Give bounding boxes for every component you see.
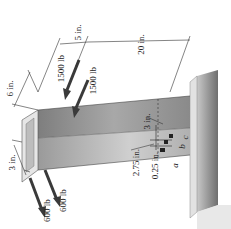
load-1500lb-label-1: 1500 lb	[57, 55, 66, 82]
point-c-marker	[169, 134, 173, 138]
beam-diagram: 6 in. 5 in. 20 in. 1500 lb 1500 lb 3 in.…	[0, 0, 231, 229]
dim-2-75in-label: 2.75 in.	[132, 149, 141, 176]
dim-3in-left-label: 3 in.	[8, 154, 17, 170]
dim-5in-label: 5 in.	[74, 24, 83, 40]
dim-6in-label: 6 in.	[6, 80, 15, 96]
dim-3in-right-label: 3 in.	[143, 113, 152, 129]
beam-drawing	[0, 0, 231, 229]
wall	[190, 70, 231, 229]
load-1500lb-label-2: 1500 lb	[89, 67, 98, 94]
dim-20in-label: 20 in.	[137, 34, 146, 55]
point-b-marker	[164, 140, 168, 144]
load-600lb-label-2: 600 lb	[43, 199, 52, 222]
point-c-label: c	[181, 136, 190, 140]
load-600lb-label-1: 600 lb	[59, 189, 68, 212]
point-b-label: b	[178, 144, 187, 149]
dim-0-25in-label: 0.25 in.	[151, 152, 160, 179]
beam	[22, 96, 190, 182]
point-a-marker	[160, 148, 165, 152]
point-a-label: a	[171, 163, 180, 168]
